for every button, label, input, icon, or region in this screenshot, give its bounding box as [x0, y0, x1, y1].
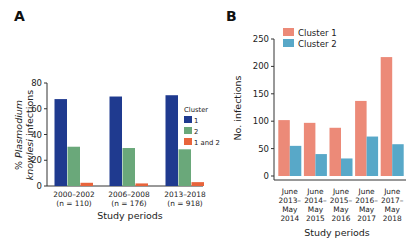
panel-b-bar-cluster-2-2 — [341, 158, 353, 176]
panel-b-x-tick-label: 2017 — [357, 214, 376, 223]
panel-b-x-tick-label: 2015 — [306, 214, 325, 223]
panel-b-y-tick-label: 250 — [253, 34, 269, 44]
panel-b-y-tick-label: 0 — [264, 171, 269, 181]
panel-b-label: B — [226, 8, 237, 24]
panel-b-legend-swatch — [283, 39, 294, 47]
panel-a-y-tick-label: 20 — [31, 155, 42, 165]
panel-a-x-ticks: 2000–2002(n = 110)2006–2008(n = 176)2013… — [53, 190, 206, 208]
panel-b-legend-label: Cluster 1 — [298, 28, 337, 38]
panel-a-x-tick-sublabel: (n = 176) — [111, 199, 147, 208]
panel-a-x-tick-sublabel: (n = 110) — [56, 199, 92, 208]
panel-a-y-tick-label: 0 — [37, 181, 42, 191]
panel-b-y-tick-label: 150 — [253, 89, 269, 99]
panel-b-x-axis-title: Study periods — [304, 227, 370, 238]
panel-a-bar-1-0 — [55, 99, 68, 186]
panel-a-bar-2-1 — [123, 148, 136, 186]
panel-a-legend: Cluster121 and 2 — [184, 106, 220, 147]
panel-a-bar-1-and-2-2 — [192, 182, 205, 186]
panel-a-legend-swatch — [184, 116, 192, 123]
panel-b-x-tick-label: June — [358, 187, 376, 196]
panel-b-x-tick-label: May — [308, 205, 324, 214]
panel-a-x-tick-label: 2013–2018 — [164, 190, 206, 199]
panel-b-bar-cluster-1-1 — [304, 123, 316, 176]
panel-b-x-tick-label: May — [282, 205, 298, 214]
panel-a-legend-swatch — [184, 138, 192, 145]
panel-a-y-tick-label: 60 — [31, 104, 42, 114]
panel-b-x-tick-label: 2015– — [330, 196, 353, 205]
panel-a: A % Plasmodiumknowlesi infections 020406… — [13, 8, 220, 221]
panel-b-bar-cluster-2-3 — [367, 137, 379, 176]
panel-b-x-tick-label: 2018 — [383, 214, 402, 223]
panel-a-x-tick-sublabel: (n = 918) — [167, 199, 203, 208]
panel-b-x-tick-label: May — [333, 205, 349, 214]
panel-a-bar-2-0 — [68, 147, 81, 186]
figure-canvas: A % Plasmodiumknowlesi infections 020406… — [0, 0, 413, 245]
panel-b: B No. infections 050100150200250 June201… — [226, 8, 406, 238]
panel-b-y-tick-label: 200 — [253, 61, 269, 71]
panel-b-x-tick-label: 2016– — [355, 196, 378, 205]
panel-b-bar-cluster-2-1 — [315, 154, 327, 176]
panel-b-x-ticks: June2013–May2014June2014–May2015June2015… — [279, 187, 404, 223]
panel-a-legend-title: Cluster — [184, 106, 208, 114]
panel-a-bar-1-and-2-0 — [81, 183, 94, 186]
panel-b-x-tick-label: 2014– — [304, 196, 327, 205]
panel-a-bars — [55, 95, 205, 186]
panel-a-bar-1-1 — [110, 97, 123, 186]
panel-a-x-tick-label: 2000–2002 — [53, 190, 94, 199]
panel-a-x-tick-label: 2006–2008 — [108, 190, 150, 199]
panel-b-x-tick-label: June — [332, 187, 350, 196]
panel-b-bars — [278, 57, 403, 176]
panel-a-x-axis-title: Study periods — [97, 210, 163, 221]
panel-a-bar-1-and-2-1 — [136, 183, 149, 186]
panel-a-y-tick-label: 40 — [31, 130, 42, 140]
panel-b-bar-cluster-1-0 — [278, 120, 290, 176]
panel-b-bar-cluster-2-0 — [290, 146, 302, 176]
panel-b-x-tick-label: June — [306, 187, 324, 196]
panel-b-x-tick-label: 2016 — [332, 214, 351, 223]
panel-b-x-tick-label: June — [281, 187, 299, 196]
panel-b-y-tick-label: 50 — [258, 144, 269, 154]
panel-b-y-ticks: 050100150200250 — [253, 34, 274, 181]
panel-a-y-axis-title-line1: % Plasmodium — [13, 100, 24, 170]
panel-a-legend-label: 1 — [194, 117, 198, 125]
panel-b-bar-cluster-1-4 — [381, 57, 393, 176]
panel-a-y-tick-label: 80 — [31, 78, 42, 88]
panel-a-legend-label: 2 — [194, 128, 198, 136]
panel-b-x-tick-label: 2014 — [280, 214, 299, 223]
panel-b-legend-swatch — [283, 28, 294, 36]
panel-b-x-tick-label: June — [383, 187, 401, 196]
panel-a-bar-1-2 — [166, 95, 179, 186]
panel-b-legend: Cluster 1Cluster 2 — [283, 28, 337, 49]
panel-a-legend-swatch — [184, 127, 192, 134]
panel-b-x-tick-label: May — [385, 205, 401, 214]
panel-b-bar-cluster-1-3 — [355, 101, 367, 176]
panel-b-x-tick-label: 2017– — [381, 196, 404, 205]
panel-b-legend-label: Cluster 2 — [298, 39, 337, 49]
panel-b-x-tick-label: 2013– — [279, 196, 302, 205]
panel-b-bar-cluster-1-2 — [330, 128, 342, 176]
panel-a-legend-label: 1 and 2 — [194, 139, 220, 147]
panel-b-y-axis-title: No. infections — [232, 75, 243, 140]
panel-a-bar-2-2 — [179, 149, 192, 186]
panel-b-bar-cluster-2-4 — [392, 144, 404, 176]
panel-b-x-tick-label: May — [359, 205, 375, 214]
panel-b-y-tick-label: 100 — [253, 116, 269, 126]
panel-a-label: A — [14, 8, 25, 24]
